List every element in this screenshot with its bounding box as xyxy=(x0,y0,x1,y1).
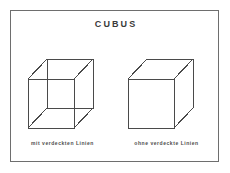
drawing-area xyxy=(10,44,219,136)
connector-edge-top-right xyxy=(74,59,93,79)
connector-edge-bottom-right xyxy=(174,108,193,128)
connector-edge-bottom-left xyxy=(28,108,47,128)
connector-edge-top-left xyxy=(28,59,47,79)
cube-without-hidden-lines-drawing xyxy=(114,44,196,136)
cube-with-hidden-lines-drawing xyxy=(14,44,96,136)
figure-page: CUBUS mit verdeckten Linien ohne ve xyxy=(0,0,230,173)
caption-cube-without-hidden-lines: ohne verdeckte Linien xyxy=(114,139,219,147)
page-title: CUBUS xyxy=(0,19,230,30)
caption-cube-with-hidden-lines: mit verdeckten Linien xyxy=(10,139,115,147)
connector-edge-bottom-right xyxy=(74,108,93,128)
front-face-edges xyxy=(128,79,174,128)
connector-edge-top-right xyxy=(174,59,193,79)
connector-edge-top-left xyxy=(128,59,147,79)
